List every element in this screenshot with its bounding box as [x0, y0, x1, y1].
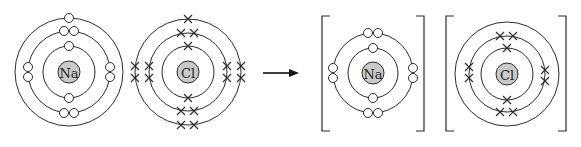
electron-dot — [374, 109, 383, 118]
electron-dot — [364, 109, 373, 118]
electron-dot — [409, 64, 418, 73]
na-symbol: Na — [59, 66, 78, 81]
chlorine-atom: Cl — [131, 15, 245, 129]
electron-dot — [364, 29, 373, 38]
right-bracket — [416, 16, 424, 131]
electron-dot — [65, 14, 74, 23]
electron-dot — [70, 109, 79, 118]
electron-dot — [369, 44, 378, 53]
electron-dot — [409, 74, 418, 83]
cl-symbol: Cl — [181, 66, 195, 81]
electron-dot — [60, 109, 69, 118]
sodium-atom: Na — [15, 14, 123, 127]
electron-dot — [374, 29, 383, 38]
electron-dot — [329, 64, 338, 73]
electron-dot — [24, 73, 33, 82]
na-ion-symbol: Na — [363, 67, 382, 82]
reaction-arrow — [263, 69, 299, 77]
electron-dot — [70, 27, 79, 36]
electron-dot — [65, 42, 74, 51]
electron-dot — [329, 74, 338, 83]
ionic-bonding-diagram: Na Cl — [0, 0, 581, 147]
electron-dot — [106, 73, 115, 82]
electron-dot — [369, 94, 378, 103]
arrowhead-icon — [289, 69, 299, 77]
electron-dot — [106, 63, 115, 72]
left-bracket — [446, 16, 454, 131]
electron-dot — [24, 63, 33, 72]
left-bracket — [322, 16, 330, 131]
sodium-ion: Na — [322, 16, 424, 131]
electron-dot — [65, 94, 74, 103]
electron-dot — [60, 27, 69, 36]
chloride-ion: Cl — [446, 16, 566, 131]
cl-ion-symbol: Cl — [500, 68, 514, 83]
